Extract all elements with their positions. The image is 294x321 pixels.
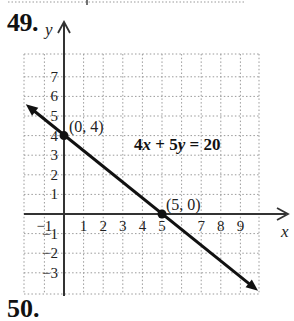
- x-tick-label: 4: [139, 218, 147, 234]
- equation-var-x: x: [142, 135, 152, 154]
- point-y-intercept: [60, 131, 69, 140]
- axes: [24, 22, 288, 296]
- x-tick-label: 7: [197, 218, 205, 234]
- y-tick-label: 3: [51, 147, 59, 163]
- equation-var-y: y: [176, 135, 186, 154]
- y-tick-label: −1: [42, 226, 58, 242]
- grid: [24, 54, 259, 294]
- point-label-x-intercept: (5, 0): [166, 196, 201, 214]
- equation-label: 4x + 5y = 20: [134, 135, 220, 154]
- y-tick-label: 5: [51, 108, 59, 124]
- x-tick-label: 8: [217, 218, 225, 234]
- equation-rhs: = 20: [185, 135, 220, 154]
- x-tick-label: 1: [80, 218, 88, 234]
- equation-rest: + 5: [151, 135, 178, 154]
- y-tick-label: 2: [51, 167, 59, 183]
- y-tick-label: −2: [42, 245, 58, 261]
- y-axis-label: y: [43, 20, 53, 39]
- x-tick-label: 9: [237, 218, 245, 234]
- x-tick-label: 3: [119, 218, 127, 234]
- x-tick-label: 2: [99, 218, 107, 234]
- y-tick-label: 7: [51, 69, 59, 85]
- next-problem-number: 50.: [7, 294, 40, 321]
- x-tick-label: 5: [158, 218, 166, 234]
- y-tick-label: 6: [51, 88, 59, 104]
- point-label-y-intercept: (0, 4): [69, 118, 104, 136]
- y-tick-labels: 7654321−1−2−3: [42, 69, 58, 281]
- y-tick-label: 1: [51, 186, 59, 202]
- x-tick-labels: −112345789: [36, 218, 244, 234]
- x-axis-label: x: [280, 222, 289, 241]
- y-tick-label: −3: [42, 265, 58, 281]
